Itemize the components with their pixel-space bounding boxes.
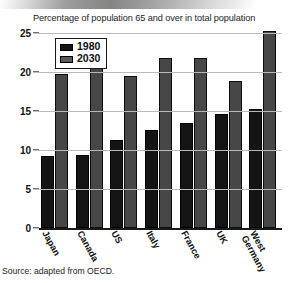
y-tick-label-0: 0 <box>25 223 31 234</box>
bar <box>159 58 172 228</box>
y-tick-label-5: 5 <box>25 184 31 195</box>
bar <box>76 155 89 228</box>
legend-label-1980: 1980 <box>77 41 100 52</box>
source-note: Source: adapted from OECD. <box>2 266 114 276</box>
legend-label-2030: 2030 <box>77 53 100 64</box>
gridline-20 <box>39 72 282 73</box>
x-tick-label: US <box>110 229 125 245</box>
bar-group <box>249 33 280 228</box>
bar <box>110 140 123 228</box>
bar <box>194 58 207 228</box>
x-tick-label: France <box>179 229 203 261</box>
y-tick-label-10: 10 <box>20 145 31 156</box>
bar <box>124 76 137 228</box>
gridline-10 <box>39 150 282 151</box>
bar <box>145 130 158 228</box>
y-tick-label-15: 15 <box>20 106 31 117</box>
bar <box>41 156 54 228</box>
chart-title: Percentage of population 65 and over in … <box>33 13 255 23</box>
bar <box>249 109 262 228</box>
gridline-5 <box>39 189 282 190</box>
gridline-25 <box>39 33 282 34</box>
x-tick-label: Italy <box>144 229 162 250</box>
y-tick-label-20: 20 <box>20 67 31 78</box>
bar-group <box>215 33 246 228</box>
bar <box>263 31 276 228</box>
legend-item-2030: 2030 <box>60 53 100 65</box>
bar-chart-figure: Percentage of population 65 and over in … <box>0 0 291 283</box>
legend-swatch-2030 <box>60 56 73 63</box>
bar <box>90 54 103 228</box>
bar-group <box>110 33 141 228</box>
x-tick-label: WestGermany <box>240 229 277 274</box>
bar <box>229 81 242 228</box>
legend-swatch-1980 <box>60 44 73 51</box>
y-tick-label-25: 25 <box>20 28 31 39</box>
x-tick-label: UK <box>214 229 229 246</box>
bar-group <box>180 33 211 228</box>
chart-legend: 1980 2030 <box>55 38 107 69</box>
x-tick-label-line2: Germany <box>240 234 268 274</box>
bar <box>180 123 193 228</box>
x-tick-label: Japan <box>40 229 62 257</box>
x-tick-label: Canada <box>75 229 100 263</box>
y-axis: 2520151050 <box>0 33 36 228</box>
legend-item-1980: 1980 <box>60 41 100 53</box>
gridline-15 <box>39 111 282 112</box>
bar <box>215 114 228 228</box>
bar-group <box>145 33 176 228</box>
